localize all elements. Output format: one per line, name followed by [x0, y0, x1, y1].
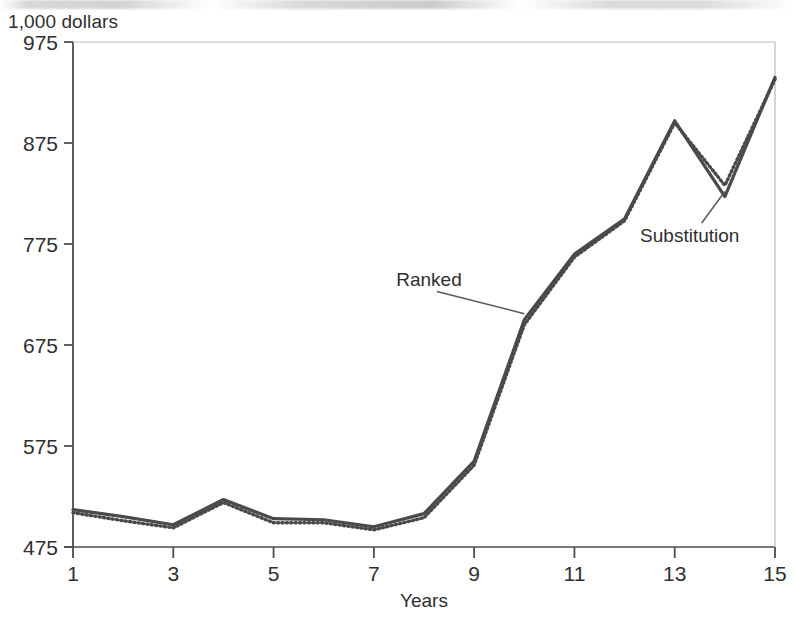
y-axis-tick-label: 875: [23, 132, 58, 155]
y-axis-tick-labels: 475575675775875975: [23, 31, 58, 559]
x-axis-tick-label: 7: [368, 562, 380, 585]
axis-tick-marks: [64, 42, 775, 558]
x-axis-tick-label: 1: [67, 562, 79, 585]
y-axis-tick-label: 575: [23, 435, 58, 458]
x-axis-tick-label: 9: [468, 562, 480, 585]
y-axis-tick-label: 975: [23, 31, 58, 54]
annotation-label-ranked: Ranked: [396, 269, 462, 290]
annotation-leader-substitution: [702, 191, 725, 223]
y-axis-tick-label: 475: [23, 536, 58, 559]
annotation-leader-ranked: [437, 291, 524, 313]
axis-lines: [64, 42, 775, 547]
line-chart-plot: 475575675775875975 13579111315 RankedSub…: [0, 0, 794, 624]
x-axis-tick-label: 3: [167, 562, 179, 585]
series-line-substitution: [73, 79, 775, 529]
y-axis-tick-label: 675: [23, 334, 58, 357]
x-axis-tick-labels: 13579111315: [67, 562, 787, 585]
x-axis-tick-label: 11: [564, 562, 586, 585]
annotation-label-substitution: Substitution: [640, 225, 739, 246]
series-line-ranked: [73, 77, 775, 526]
x-axis-tick-label: 15: [763, 562, 786, 585]
y-axis-tick-label: 775: [23, 233, 58, 256]
series-annotations: RankedSubstitution: [396, 191, 739, 313]
x-axis-tick-label: 5: [268, 562, 280, 585]
data-series-group: [73, 77, 775, 529]
x-axis-tick-label: 13: [663, 562, 686, 585]
x-axis-title: Years: [400, 590, 448, 611]
